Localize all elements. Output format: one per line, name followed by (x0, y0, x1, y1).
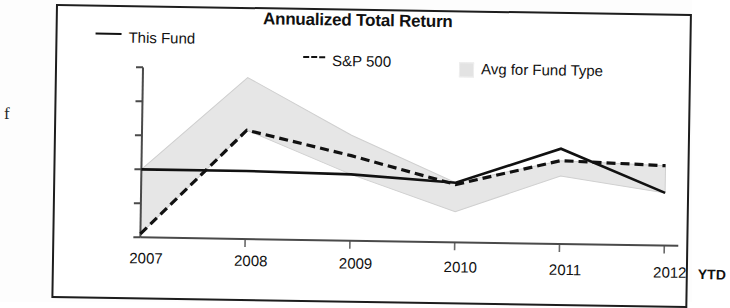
chart-container: Annualized Total Return This Fund S&P 50… (51, 4, 687, 304)
page-bleed-glyph: f (4, 104, 10, 124)
x-axis-tick-label: 2007 (129, 249, 163, 267)
x-axis-tick-label: 2011 (549, 261, 582, 279)
x-axis-tick-label: 2008 (234, 252, 268, 270)
x-axis-ytd-note: YTD (698, 266, 726, 282)
x-axis-line (140, 237, 678, 245)
x-axis-tick-label: 2012 (653, 263, 687, 281)
x-axis-tick-label: 2010 (443, 258, 477, 276)
x-axis-tick-label: 2009 (339, 255, 373, 273)
